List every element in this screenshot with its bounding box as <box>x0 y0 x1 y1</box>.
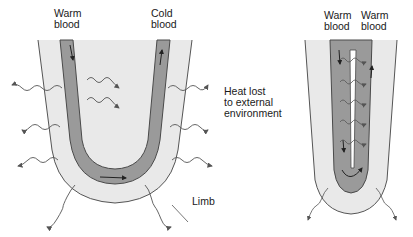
right-warm-blood-label-left: Warm blood <box>324 10 352 32</box>
limb-pointer-line <box>172 205 188 222</box>
limb-label: Limb <box>192 196 215 207</box>
right-warm-blood-label-right: Warm blood <box>361 10 389 32</box>
left-cold-blood-label: Cold blood <box>151 8 177 30</box>
left-warm-blood-label: Warm blood <box>54 8 82 30</box>
right-vessel <box>330 40 372 193</box>
heat-lost-label: Heat lost to external environment <box>224 86 282 119</box>
